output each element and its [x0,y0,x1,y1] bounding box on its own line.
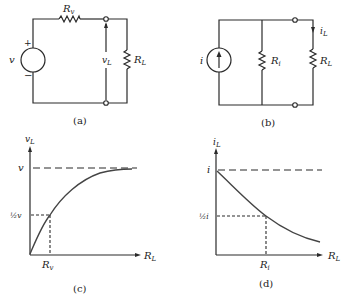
caption-c: (c) [73,283,87,294]
caption-d: (d) [259,278,273,289]
figure-canvas: + − v Rv vL RL (a) i Ri iL RL (b) [0,0,347,296]
wire-a-top-right [108,19,127,50]
source-label-v: v [9,54,15,65]
circuit-a: + − v Rv vL RL (a) [9,3,147,126]
asymptote-label-v: v [18,162,24,173]
resistor-rl-icon [124,50,130,69]
terminal-a-top-icon [104,17,109,22]
half-label-i: ½i [199,212,209,221]
vl-curve [30,169,132,254]
rl-label-b: RL [319,55,333,68]
wire-a-bottom-right [108,69,127,103]
y-axis-label-il: iL [213,137,221,149]
graph-d: iL i ½i Ri RL (d) [199,137,341,289]
wire-b-bottom [219,72,293,105]
resistor-rv-icon [59,16,80,22]
ri-label: Ri [270,55,281,68]
source-label-i: i [200,55,203,66]
resistor-ri-icon [259,51,265,70]
terminal-b-top-icon [293,18,298,23]
il-label: iL [320,26,328,38]
rv-label: Rv [62,3,75,16]
wire-b-top-right [297,20,313,49]
arrow-right-icon [317,253,323,257]
terminal-a-bottom-icon [104,101,109,106]
wire-b-bottom-right [297,68,313,105]
x-axis-label-rl: RL [327,250,341,263]
caption-a: (a) [73,115,87,126]
asymptote-label-i: i [207,164,210,175]
arrow-right-icon [135,253,141,257]
x-axis-label-rl: RL [143,250,157,263]
wire-a-bottom-left [33,72,104,103]
rl-label-a: RL [133,54,147,67]
ri-axis-label: Ri [259,259,270,272]
arrow-up-icon [104,22,108,28]
plus-sign: + [24,38,32,48]
circuit-b: i Ri iL RL (b) [200,18,333,128]
voltage-source-icon [21,48,45,72]
wire-b-top [219,20,293,48]
wire-a-top-left [33,19,59,48]
minus-sign: − [24,70,32,81]
rv-axis-label: Rv [41,259,54,272]
il-curve [217,171,320,242]
graph-c: vL v ½v Rv RL (c) [10,134,157,294]
caption-b: (b) [261,117,275,128]
arrow-down-icon [311,27,315,33]
y-axis-label-vl: vL [25,134,35,146]
terminal-b-bottom-icon [293,103,298,108]
arrow-up-icon [28,146,32,152]
vl-label: vL [102,55,112,67]
half-label-v: ½v [10,211,22,220]
resistor-rl-b-icon [310,49,316,68]
